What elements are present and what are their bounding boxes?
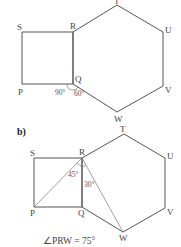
hexagon-rtuvwq: [73, 5, 163, 112]
angle-label-30: 30°: [84, 180, 95, 189]
label-s-b: S: [30, 148, 35, 158]
angle-arc-45: [77, 163, 82, 166]
square-pqrs: [22, 32, 73, 84]
part-label-b: b): [17, 126, 26, 138]
angle-label-90: 90°: [55, 88, 66, 97]
label-t-b: T: [120, 124, 126, 134]
line-rw: [82, 158, 123, 232]
label-w-b: W: [119, 233, 128, 243]
label-u: U: [165, 25, 172, 35]
label-v: V: [165, 85, 172, 95]
label-w: W: [114, 114, 123, 124]
label-r: R: [70, 21, 76, 31]
diagonal-pr: [34, 158, 82, 207]
label-q-b: Q: [78, 208, 85, 218]
result-angle-prw: ∠PRW = 75°: [43, 236, 95, 246]
label-q: Q: [75, 74, 82, 84]
figure-a: S R Q P T U V W 90° 60°: [17, 0, 172, 124]
figure-b: b) S R Q P T U V W 45° 30° ∠PRW = 75°: [17, 124, 174, 246]
label-p-b: P: [30, 208, 35, 218]
angle-arc-30: [82, 165, 86, 167]
label-s: S: [17, 22, 22, 32]
diagram-canvas: S R Q P T U V W 90° 60° b) S R Q P T U V…: [0, 0, 181, 247]
label-r-b: R: [79, 147, 85, 157]
angle-label-45: 45°: [68, 170, 79, 179]
label-u-b: U: [167, 151, 174, 161]
angle-arc-90: [67, 84, 73, 90]
label-t: T: [114, 0, 120, 6]
label-v-b: V: [167, 207, 174, 217]
label-p: P: [18, 87, 23, 97]
angle-label-60: 60°: [74, 89, 85, 98]
